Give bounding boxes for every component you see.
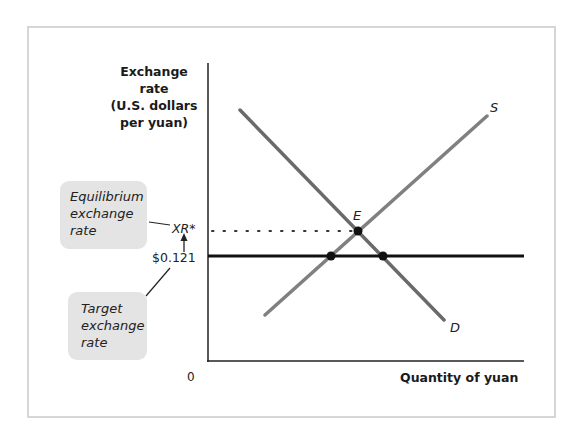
callout-line: exchange [70,205,147,222]
callout-line: Equilibrium [70,188,147,205]
target-price-label: $0.121 [152,250,196,265]
callout-line: rate [70,222,147,239]
supply-curve [265,116,487,315]
callout-line: rate [81,334,147,351]
equilibrium-point [354,227,363,236]
supply-label: S [490,100,498,115]
target-supply-point [327,252,336,261]
callout-line: exchange [81,317,147,334]
target-connector [146,268,170,296]
target-demand-point [379,252,388,261]
target-callout: Target exchange rate [68,292,147,360]
x-axis-label: Quantity of yuan [400,370,518,385]
demand-curve [240,110,444,320]
equilibrium-callout: Equilibrium exchange rate [60,181,147,249]
equilibrium-connector [149,222,170,225]
callout-line: Target [81,300,147,317]
xr-star-label: XR* [172,221,196,236]
y-label-line-3: per yuan) [108,114,200,131]
demand-label: D [450,320,460,335]
y-axis-label: Exchange rate (U.S. dollars per yuan) [108,63,200,131]
y-label-line-1: Exchange rate [108,63,200,97]
y-label-line-2: (U.S. dollars [108,97,200,114]
equilibrium-label: E [353,208,361,223]
origin-label: 0 [187,370,195,384]
